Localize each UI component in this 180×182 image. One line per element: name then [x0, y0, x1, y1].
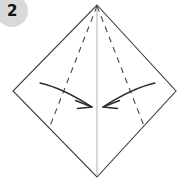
- origami-diagram: 2: [0, 0, 180, 182]
- step-badge: 2: [0, 0, 28, 27]
- step-badge-label: 2: [7, 2, 17, 20]
- origami-diagram-canvas: 2: [0, 0, 180, 182]
- paper-outline: [13, 5, 176, 177]
